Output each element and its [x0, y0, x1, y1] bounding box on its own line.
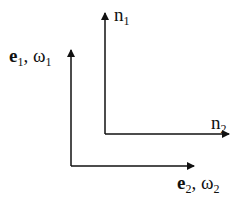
e2-separator: , — [191, 172, 201, 193]
n2-label: n2 — [211, 113, 227, 135]
omega1-symbol: ω — [33, 45, 46, 66]
n1-subscript: 1 — [124, 14, 130, 28]
omega2-subscript: 2 — [213, 182, 219, 196]
n1-label: n1 — [114, 5, 130, 27]
omega2-symbol: ω — [201, 172, 214, 193]
n1-symbol: n — [114, 4, 124, 25]
omega1-subscript: 1 — [45, 55, 51, 69]
diagram-canvas — [0, 0, 243, 199]
n2-subscript: 2 — [221, 122, 227, 136]
e2-omega2-label: e2, ω2 — [177, 173, 219, 195]
e-frame-axes — [71, 50, 194, 166]
n2-symbol: n — [211, 112, 221, 133]
e1-omega1-label: e1, ω1 — [9, 46, 51, 68]
e1-separator: , — [23, 45, 33, 66]
